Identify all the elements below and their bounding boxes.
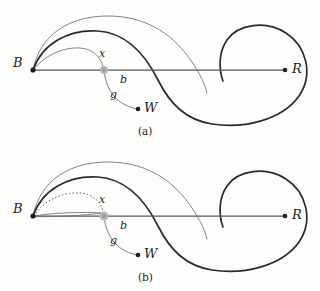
figure-root: B x W R b g (a) B — [0, 0, 320, 291]
main-thick-spiral — [33, 171, 307, 271]
point-R-marker — [283, 68, 288, 73]
label-R: R — [292, 208, 302, 221]
label-B: B — [13, 202, 23, 215]
point-W-marker — [136, 253, 141, 258]
caption-a: (a) — [138, 126, 152, 137]
label-b: b — [120, 74, 127, 85]
point-x-core — [102, 214, 106, 218]
label-x: x — [99, 194, 105, 205]
point-x-core — [102, 68, 106, 72]
caption-b: (b) — [138, 272, 153, 283]
label-W: W — [144, 101, 157, 114]
point-W-marker — [136, 107, 141, 112]
label-g: g — [110, 89, 117, 100]
label-B: B — [13, 56, 23, 69]
panel-a: B x W R b g (a) — [0, 0, 320, 145]
panel-b: B x W R b g (b) — [0, 146, 320, 291]
panel-a-drawing — [0, 0, 320, 145]
panel-b-drawing — [0, 146, 320, 291]
label-W: W — [144, 247, 157, 260]
label-g: g — [110, 235, 117, 246]
point-B-marker — [30, 213, 35, 218]
label-R: R — [292, 62, 302, 75]
point-R-marker — [283, 214, 288, 219]
main-thick-spiral — [33, 25, 307, 125]
point-B-marker — [30, 67, 35, 72]
label-x: x — [99, 48, 105, 59]
label-b: b — [120, 220, 127, 231]
